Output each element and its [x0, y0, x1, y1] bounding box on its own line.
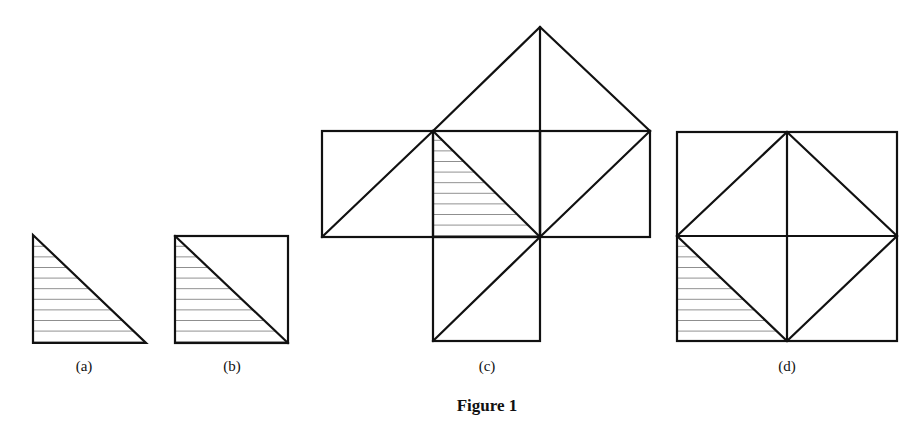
panel-d-square [677, 132, 897, 341]
panel-c-left-diagonal [322, 131, 433, 237]
panel-c-top-triangle [433, 27, 650, 131]
panel-c-label: (c) [479, 358, 496, 375]
figure-caption: Figure 1 [457, 396, 518, 416]
panel-b-label: (b) [223, 358, 241, 375]
panel-c-arrangement [322, 27, 650, 341]
panel-c-right-diagonal [540, 131, 650, 237]
panel-b-square [175, 236, 288, 343]
panel-a-label: (a) [76, 358, 93, 375]
panel-d-label: (d) [778, 358, 796, 375]
panel-a-triangle [33, 235, 146, 343]
panel-c-bottom-diagonal [433, 237, 540, 341]
